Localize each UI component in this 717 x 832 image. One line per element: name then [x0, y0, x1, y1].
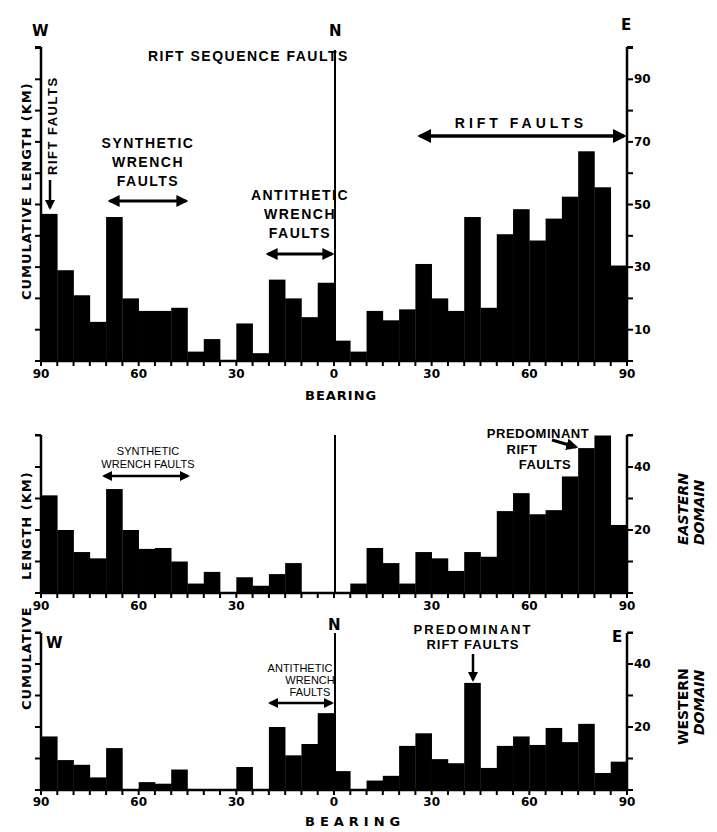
bar-E5-10 [350, 584, 367, 593]
bar-W65-60 [122, 298, 139, 361]
bar-W60-55 [139, 549, 156, 593]
bar-E25-30 [415, 733, 432, 790]
bar-W30-25 [236, 323, 253, 361]
x-tick-label: 60 [130, 367, 147, 381]
bar-W40-35 [204, 339, 221, 361]
bar-E45-50 [481, 308, 498, 361]
bar-E55-60 [513, 493, 530, 593]
x-tick-label: 90 [33, 367, 50, 381]
bar-E85-90 [611, 266, 628, 361]
bar-W20-15 [269, 574, 286, 593]
bar-E80-85 [594, 436, 611, 594]
x-axis-label: BEARING [305, 814, 405, 829]
y-tick-label: 20 [634, 720, 651, 734]
bar-W75-70 [90, 777, 107, 790]
bar-W10-5 [301, 744, 318, 790]
bar-W70-65 [106, 748, 123, 790]
east-label: E [612, 628, 622, 646]
bar-W60-55 [139, 311, 156, 361]
east-label: E [621, 16, 631, 34]
bar-E60-65 [529, 241, 546, 362]
bar-E80-85 [594, 187, 611, 361]
bar-E10-15 [367, 781, 384, 790]
bar-E25-30 [415, 552, 432, 593]
x-tick-label: 60 [521, 599, 538, 613]
bar-E50-55 [497, 234, 514, 361]
western-label-1: WESTERN [675, 668, 691, 745]
predominant-label-3: FAULTS [519, 457, 572, 472]
bar-E75-80 [578, 448, 595, 593]
x-tick-label: 30 [423, 599, 440, 613]
y-tick-label: 20 [634, 523, 651, 537]
x-tick-label: 0 [330, 367, 338, 381]
bar-W10-5 [301, 317, 318, 361]
rift-faults-label: RIFT FAULTS [455, 115, 587, 131]
bar-W75-70 [90, 558, 107, 593]
western-label-2: DOMAIN [691, 670, 707, 735]
predominant-arrow [552, 440, 576, 447]
west-label: W [32, 22, 49, 40]
synthetic-label-2: WRENCH FAULTS [101, 458, 194, 470]
x-tick-label: 0 [330, 795, 338, 809]
x-tick-label: 30 [423, 795, 440, 809]
bar-E0-5 [334, 341, 351, 361]
bar-W70-65 [106, 489, 123, 593]
bar-W45-40 [188, 352, 205, 361]
x-tick-label: 90 [619, 795, 636, 809]
bar-E60-65 [529, 514, 546, 593]
x-tick-label: 30 [228, 367, 245, 381]
bar-W20-15 [269, 280, 286, 361]
bar-E35-40 [448, 571, 465, 593]
synthetic-label-1: SYNTHETIC [102, 135, 195, 151]
bar-W85-80 [57, 760, 74, 790]
north-label: N [328, 616, 341, 634]
bar-E35-40 [448, 763, 465, 790]
antithetic-label-2: WRENCH [285, 674, 335, 686]
bar-E65-70 [546, 219, 563, 361]
x-tick-label: 90 [619, 367, 636, 381]
x-tick-label: 30 [228, 795, 245, 809]
y-tick-label: 40 [634, 657, 651, 671]
bar-W30-25 [236, 577, 253, 593]
y-axis-label: LENGTH (KM) [19, 471, 34, 580]
bar-E10-15 [367, 311, 384, 361]
bar-W80-75 [74, 295, 91, 361]
bar-W50-45 [171, 308, 188, 361]
bar-W90-85 [41, 495, 58, 593]
synthetic-label-2: WRENCH [112, 154, 184, 170]
y-tick-label: 40 [634, 460, 651, 474]
bar-E15-20 [383, 776, 400, 790]
western-domain-panel: W N E 20409060300306090 CUMULATIVE ANTIT… [19, 606, 707, 829]
bar-E55-60 [513, 209, 530, 361]
bar-W75-70 [90, 322, 107, 361]
bar-E40-45 [464, 552, 481, 593]
north-label: N [329, 22, 342, 40]
bar-W55-50 [155, 548, 172, 593]
predominant-label-1: PREDOMINANT [487, 426, 589, 441]
bar-W30-25 [236, 767, 253, 790]
x-tick-label: 60 [521, 795, 538, 809]
bar-W40-35 [204, 572, 221, 593]
bar-E65-70 [546, 728, 563, 790]
antithetic-label-2: WRENCH [264, 206, 336, 222]
rift-faults-vertical-label: RIFT FAULTS [45, 76, 60, 175]
antithetic-label-3: FAULTS [290, 686, 331, 698]
x-tick-label: 60 [521, 367, 538, 381]
predominant-label-2: RIFT [507, 442, 538, 457]
bar-E10-15 [367, 548, 384, 593]
bar-E75-80 [578, 151, 595, 361]
bar-W20-15 [269, 727, 286, 790]
bar-E65-70 [546, 510, 563, 593]
x-tick-label: 30 [423, 367, 440, 381]
bar-E30-35 [432, 558, 449, 593]
figure: W N E RIFT SEQUENCE FAULTS 1030507090906… [0, 0, 717, 832]
bar-E45-50 [481, 768, 498, 790]
x-tick-label: 90 [33, 599, 50, 613]
bar-W80-75 [74, 765, 91, 790]
rift-sequence-panel: W N E RIFT SEQUENCE FAULTS 1030507090906… [19, 16, 651, 403]
predominant-label-2: RIFT FAULTS [426, 637, 519, 652]
bar-E85-90 [611, 762, 628, 790]
bar-E20-25 [399, 746, 416, 790]
bar-E70-75 [562, 742, 579, 790]
synthetic-label-1: SYNTHETIC [117, 445, 179, 457]
